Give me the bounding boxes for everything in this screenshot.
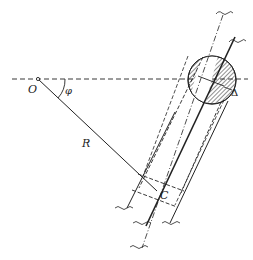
hatched-circle xyxy=(183,40,240,125)
label-angle: φ xyxy=(65,86,72,96)
origin-point xyxy=(36,77,39,80)
angle-arc xyxy=(58,79,65,98)
center-axis-line xyxy=(142,15,223,248)
right-strip-dashed-2 xyxy=(175,100,224,205)
left-strip-dashed xyxy=(139,57,203,188)
left-strip-dashed-2 xyxy=(143,56,188,176)
right-strip-solid xyxy=(170,101,228,223)
label-offset: Δ xyxy=(231,88,238,98)
label-radius: R xyxy=(82,138,90,149)
label-point-c: C xyxy=(160,190,168,201)
diagram-canvas: O φ R C Δ xyxy=(0,0,253,260)
diagram-svg xyxy=(0,0,253,260)
cross-dashed-2 xyxy=(132,190,177,207)
break-marks xyxy=(115,12,246,249)
radius-line xyxy=(38,79,157,191)
label-origin: O xyxy=(28,84,37,95)
